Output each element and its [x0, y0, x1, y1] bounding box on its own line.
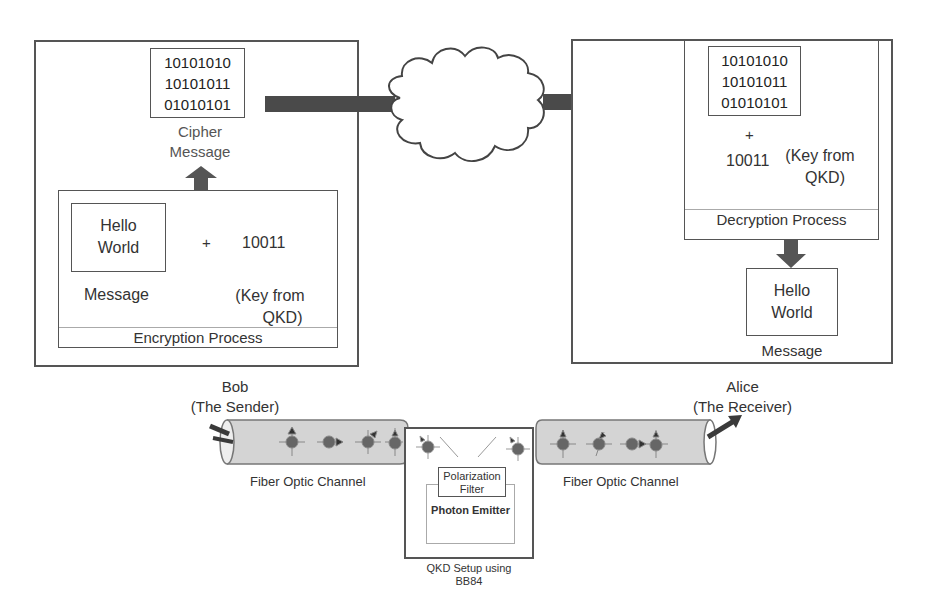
- cipher-bits-line-1: 10101010: [151, 52, 244, 73]
- cipher-bits-line-3: 01010101: [151, 94, 244, 115]
- cipher-label: Cipher Message: [150, 122, 250, 162]
- qkd-setup-label: QKD Setup using BB84: [404, 562, 534, 588]
- arrow-to-cloud: [265, 96, 395, 112]
- cloud-icon: [380, 38, 560, 168]
- decrypted-message-label: Message: [746, 341, 838, 361]
- plain-message-text: Hello World: [71, 215, 166, 259]
- message-label: Message: [84, 285, 149, 305]
- plus-sign: +: [202, 233, 211, 253]
- receiver-key-label: (Key from QKD): [780, 145, 860, 189]
- decryption-process-label: Decryption Process: [684, 210, 879, 230]
- received-bits-line-1: 10101010: [709, 50, 800, 71]
- receiver-plus-sign: +: [745, 125, 754, 145]
- photon-emitter-label: Photon Emitter: [426, 504, 515, 517]
- polarization-filter-box: Polarization Filter: [438, 467, 506, 497]
- alice-arrow-icon: [706, 413, 746, 441]
- alice-label: Alice (The Receiver): [680, 377, 805, 417]
- received-cipher-box: 10101010 10101011 01010101: [708, 46, 801, 116]
- right-fiber-label: Fiber Optic Channel: [563, 472, 679, 492]
- receiver-key-value: 10011: [726, 151, 769, 171]
- received-bits-line-3: 01010101: [709, 92, 800, 113]
- up-arrow-icon: [184, 166, 218, 191]
- decrypted-message-text: Hello World: [746, 280, 838, 324]
- left-fiber-channel: [205, 418, 405, 478]
- cipher-message-box: 10101010 10101011 01010101: [150, 48, 245, 118]
- bob-label: Bob (The Sender): [180, 377, 290, 417]
- key-value: 10011: [242, 233, 285, 253]
- encryption-process-label: Encryption Process: [58, 328, 338, 348]
- left-fiber-label: Fiber Optic Channel: [250, 472, 366, 492]
- down-arrow-icon: [776, 240, 806, 268]
- cipher-bits-line-2: 10101011: [151, 73, 244, 94]
- received-bits-line-2: 10101011: [709, 71, 800, 92]
- key-label: (Key from QKD): [220, 285, 320, 329]
